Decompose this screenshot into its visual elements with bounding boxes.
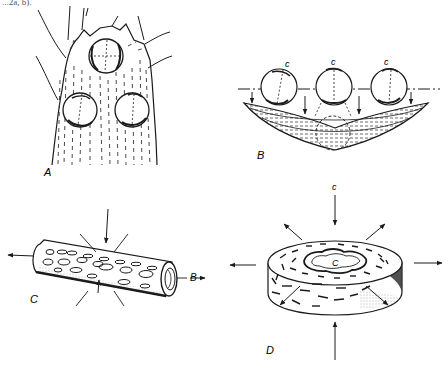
panel-c-axis-label: B [190, 272, 197, 283]
figure-drawing: A [0, 0, 448, 369]
panel-b-drawing [238, 69, 440, 150]
panel-b-sphere-label-1: c [285, 59, 290, 69]
panel-a-label: A [43, 166, 51, 178]
caption-fragment: ...2a, b). [2, 0, 32, 7]
panel-b-sphere-label-2: c [331, 57, 336, 67]
panel-a-drawing [36, 6, 172, 165]
panel-d-label: D [266, 344, 274, 356]
figure: ...2a, b). [0, 0, 448, 369]
panel-b-sphere-label-3: c [384, 57, 389, 67]
panel-c-drawing [8, 209, 205, 306]
panel-d-center-label: C [332, 258, 339, 268]
panel-b-label: B [257, 149, 264, 161]
panel-d-top-label: c [332, 182, 337, 192]
panel-c-label: C [30, 293, 38, 305]
panel-d-drawing [230, 195, 442, 360]
